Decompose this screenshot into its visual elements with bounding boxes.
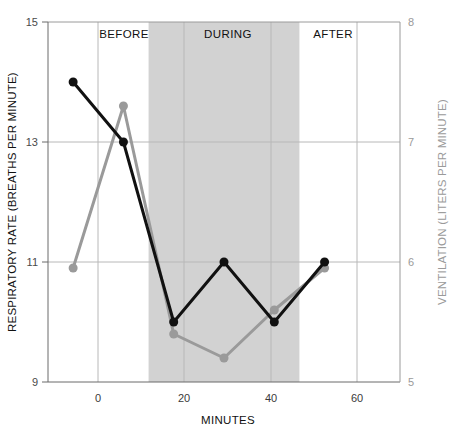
tick-label-x-60: 60 xyxy=(351,392,363,404)
data-point xyxy=(169,330,178,339)
y-axis-label-left: RESPIRATORY RATE (BREATHS PER MINUTE) xyxy=(6,72,18,332)
data-point xyxy=(220,258,229,267)
tick-label-x-20: 20 xyxy=(178,392,190,404)
phase-label-during: DURING xyxy=(204,28,252,40)
y-axis-label-right: VENTILATION (LITERS PER MINUTE) xyxy=(436,99,448,305)
chart-container: 15 13 11 9 8 7 6 5 0 20 40 60 BEFORE DUR… xyxy=(0,0,462,432)
tick-label-x-40: 40 xyxy=(265,392,277,404)
data-point xyxy=(69,78,78,87)
tick-label-right-7: 7 xyxy=(408,136,414,148)
right-axis-ticks: 8 7 6 5 xyxy=(408,16,414,388)
data-point xyxy=(270,306,279,315)
phase-label-before: BEFORE xyxy=(99,28,149,40)
tick-label-left-15: 15 xyxy=(26,16,38,28)
phase-label-after: AFTER xyxy=(313,28,353,40)
data-point xyxy=(69,264,78,273)
data-point xyxy=(270,318,279,327)
tick-label-right-6: 6 xyxy=(408,256,414,268)
tick-label-x-0: 0 xyxy=(95,392,101,404)
data-point xyxy=(119,138,128,147)
tick-label-left-13: 13 xyxy=(26,136,38,148)
phase-labels: BEFORE DURING AFTER xyxy=(99,28,353,40)
data-point xyxy=(119,102,128,111)
tick-label-left-9: 9 xyxy=(32,376,38,388)
data-point xyxy=(320,258,329,267)
tick-label-right-8: 8 xyxy=(408,16,414,28)
respiratory-ventilation-line-chart: 15 13 11 9 8 7 6 5 0 20 40 60 BEFORE DUR… xyxy=(0,0,462,432)
x-axis-label: MINUTES xyxy=(201,414,255,426)
tick-label-left-11: 11 xyxy=(27,256,38,268)
tick-label-right-5: 5 xyxy=(408,376,414,388)
data-point xyxy=(169,318,178,327)
data-point xyxy=(220,354,229,363)
x-axis-ticks: 0 20 40 60 xyxy=(95,392,363,404)
left-axis-ticks: 15 13 11 9 xyxy=(26,16,48,388)
